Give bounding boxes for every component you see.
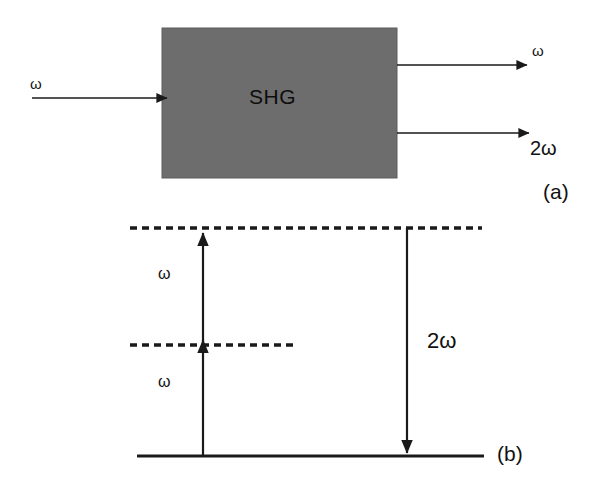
transition-label-lower-omega: ω (158, 374, 171, 390)
input-beam-label: ω (30, 76, 42, 91)
output-second-harmonic-label: 2ω (530, 138, 557, 158)
shg-block-label: SHG (249, 86, 296, 107)
transition-label-upper-omega: ω (158, 266, 171, 282)
panel-a-caption: (a) (543, 181, 569, 202)
shg-figure: ω SHG ω 2ω (a) ω ω 2ω (b) (0, 0, 609, 485)
output-fundamental-label: ω (532, 43, 544, 58)
panel-b-caption: (b) (497, 443, 523, 464)
figure-canvas (0, 0, 609, 485)
transition-label-2omega: 2ω (427, 330, 456, 352)
